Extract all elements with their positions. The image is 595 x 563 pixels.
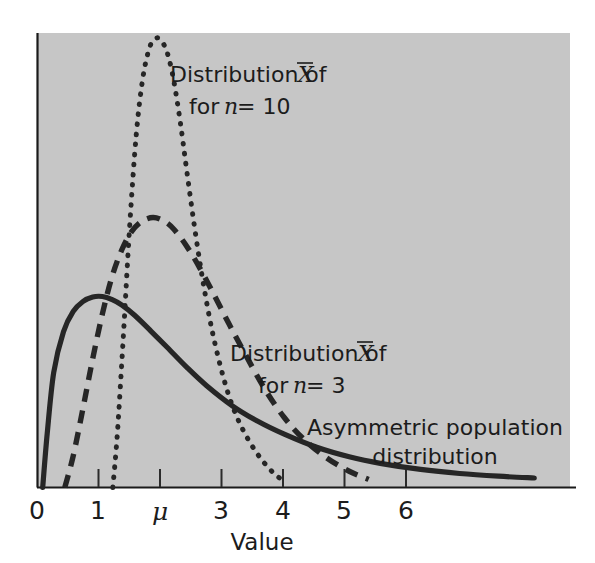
tick-label-4: 4 [275,496,291,525]
annotation-n3-line2-prefix: for [258,373,289,398]
tick-label-0: 0 [29,496,45,525]
tick-label-mu: μ [152,497,168,526]
annotation-n10-xbar: X [296,62,315,87]
annotation-n3-line2-eq: = 3 [306,373,345,398]
distribution-chart: 0 1 μ 3 4 5 6 Value Distribution of X fo… [0,0,595,563]
annotation-population-line1: Asymmetric population [307,415,563,440]
figure-container: 0 1 μ 3 4 5 6 Value Distribution of X fo… [0,0,595,563]
tick-label-6: 6 [398,496,414,525]
tick-label-5: 5 [336,496,352,525]
annotation-n3-xbar: X [356,341,375,366]
x-axis-title: Value [230,529,293,555]
annotation-n10-line2-prefix: for [189,94,220,119]
annotation-population-line2: distribution [372,444,497,469]
tick-label-3: 3 [213,496,229,525]
tick-label-1: 1 [90,496,106,525]
annotation-n10-line2-eq: = 10 [237,94,290,119]
